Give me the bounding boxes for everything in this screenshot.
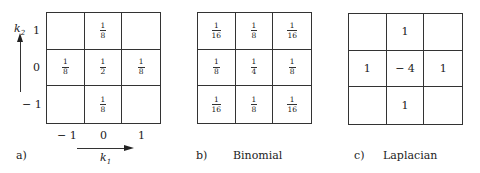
- x-axis-arrow-line: [77, 148, 125, 149]
- panel-a-grid: 1818121818: [46, 12, 161, 124]
- denominator: 4: [252, 68, 257, 76]
- grid-cell: 18: [122, 50, 160, 87]
- fraction-value: 18: [62, 58, 69, 76]
- numerator: 1: [213, 58, 220, 66]
- y-tick-0: 0: [33, 61, 40, 74]
- fraction-value: 18: [138, 58, 145, 76]
- x-axis-arrowhead-icon: [124, 145, 134, 151]
- y-axis-arrow-line: [20, 40, 21, 92]
- grid-cell: [122, 13, 160, 50]
- fraction-value: 18: [213, 58, 220, 76]
- x-axis-label: k1: [100, 151, 111, 166]
- grid-cell: 18: [273, 50, 311, 87]
- grid-cell: 1: [349, 51, 387, 88]
- denominator: 2: [101, 68, 106, 76]
- grid-cell: [47, 86, 85, 123]
- cell-value: − 4: [395, 62, 415, 75]
- grid-cell: 116: [273, 86, 311, 123]
- denominator: 8: [101, 32, 106, 40]
- grid-cell: [424, 14, 462, 51]
- denominator: 8: [63, 68, 68, 76]
- grid-cell: 1: [424, 51, 462, 88]
- fraction-value: 18: [100, 96, 107, 114]
- numerator: 1: [62, 58, 69, 66]
- grid-cell: [424, 87, 462, 124]
- denominator: 8: [252, 32, 257, 40]
- panel-a-tag: a): [16, 149, 27, 162]
- grid-cell: [47, 13, 85, 50]
- cell-value: 1: [401, 25, 408, 38]
- grid-cell: [349, 87, 387, 124]
- panel-c-grid: 11− 411: [348, 13, 463, 125]
- grid-cell: 1: [387, 87, 425, 124]
- grid-cell: 18: [85, 86, 123, 123]
- y-tick-minus-1: − 1: [22, 98, 42, 111]
- x-tick-minus-1: − 1: [57, 129, 77, 142]
- panel-b-caption: Binomial: [233, 149, 282, 162]
- y-axis-arrowhead-icon: [17, 33, 23, 42]
- grid-cell: − 4: [387, 51, 425, 88]
- numerator: 1: [138, 58, 145, 66]
- grid-cell: 18: [236, 86, 274, 123]
- denominator: 8: [290, 68, 295, 76]
- denominator: 16: [287, 106, 297, 114]
- panel-c-caption: Laplacian: [383, 149, 437, 162]
- grid-cell: 1: [387, 14, 425, 51]
- x-tick-0: 0: [100, 129, 107, 142]
- numerator: 1: [289, 58, 296, 66]
- x-tick-1: 1: [138, 129, 145, 142]
- numerator: 1: [289, 96, 296, 104]
- grid-cell: 116: [273, 13, 311, 50]
- fraction-value: 14: [251, 58, 258, 76]
- grid-cell: 116: [198, 13, 236, 50]
- fraction-value: 116: [287, 96, 297, 114]
- panel-c-tag: c): [354, 149, 364, 162]
- x-axis-symbol: k: [100, 151, 107, 164]
- grid-cell: 18: [236, 13, 274, 50]
- grid-cell: 18: [47, 50, 85, 87]
- grid-cell: [349, 14, 387, 51]
- denominator: 8: [101, 106, 106, 114]
- fraction-value: 18: [289, 58, 296, 76]
- cell-value: 1: [440, 62, 447, 75]
- grid-cell: 12: [85, 50, 123, 87]
- panel-b-tag: b): [196, 149, 207, 162]
- denominator: 16: [212, 106, 222, 114]
- grid-cell: [122, 86, 160, 123]
- numerator: 1: [100, 96, 107, 104]
- y-tick-1: 1: [33, 24, 40, 37]
- fraction-value: 18: [251, 96, 258, 114]
- numerator: 1: [100, 58, 107, 66]
- numerator: 1: [213, 22, 220, 30]
- fraction-value: 18: [100, 22, 107, 40]
- numerator: 1: [289, 22, 296, 30]
- numerator: 1: [251, 58, 258, 66]
- numerator: 1: [251, 96, 258, 104]
- x-axis-subscript: 1: [107, 158, 111, 166]
- fraction-value: 12: [100, 58, 107, 76]
- fraction-value: 116: [287, 22, 297, 40]
- denominator: 8: [214, 68, 219, 76]
- fraction-value: 116: [212, 22, 222, 40]
- grid-cell: 18: [85, 13, 123, 50]
- denominator: 16: [287, 32, 297, 40]
- panel-b-grid: 1161811618141811618116: [197, 12, 312, 124]
- grid-cell: 18: [198, 50, 236, 87]
- grid-cell: 14: [236, 50, 274, 87]
- denominator: 8: [252, 106, 257, 114]
- fraction-value: 18: [251, 22, 258, 40]
- numerator: 1: [100, 22, 107, 30]
- denominator: 16: [212, 32, 222, 40]
- numerator: 1: [213, 96, 220, 104]
- numerator: 1: [251, 22, 258, 30]
- cell-value: 1: [364, 62, 371, 75]
- cell-value: 1: [401, 99, 408, 112]
- denominator: 8: [139, 68, 144, 76]
- grid-cell: 116: [198, 86, 236, 123]
- fraction-value: 116: [212, 96, 222, 114]
